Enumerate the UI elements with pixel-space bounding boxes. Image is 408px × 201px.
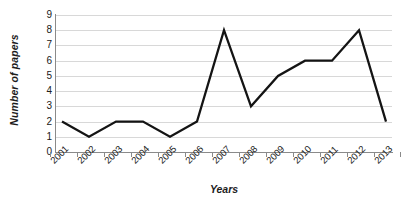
- data-line-number-of-papers: [62, 30, 386, 137]
- data-series-layer: [0, 0, 408, 201]
- line-chart-figure: Number of papers 0123456789 200120022003…: [0, 0, 408, 201]
- x-axis-title: Years: [56, 183, 392, 195]
